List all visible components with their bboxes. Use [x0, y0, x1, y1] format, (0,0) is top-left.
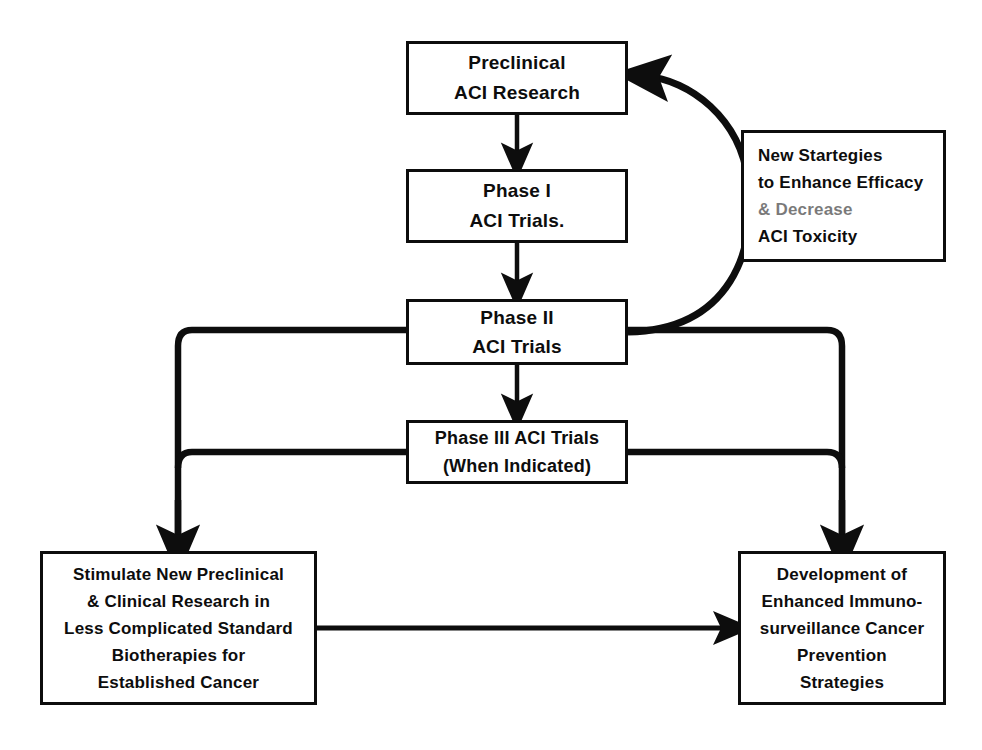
edge-phase3-to-development [628, 452, 842, 468]
node-phase2-line-1: Phase II [480, 303, 553, 332]
node-development-enhanced-immunosurveillance[interactable]: Development of Enhanced Immuno- surveill… [738, 551, 946, 705]
node-stimulate-line-3: Less Complicated Standard [64, 615, 293, 642]
edge-phase2-feedback-loop [628, 76, 750, 332]
edge-phase2-to-development [628, 330, 842, 540]
node-new-strategies[interactable]: New Startegies to Enhance Efficacy & Dec… [741, 130, 946, 262]
node-stimulate-line-1: Stimulate New Preclinical [73, 561, 284, 588]
node-development-line-2: Enhanced Immuno- [762, 588, 923, 615]
node-development-line-1: Development of [777, 561, 907, 588]
node-strategies-line-3: & Decrease [758, 196, 853, 223]
node-development-line-3: surveillance Cancer [760, 615, 924, 642]
node-stimulate-line-2: & Clinical Research in [87, 588, 270, 615]
node-stimulate-line-5: Established Cancer [98, 669, 259, 696]
node-phase3-line-2: (When Indicated) [443, 452, 591, 480]
node-stimulate-new-preclinical-research[interactable]: Stimulate New Preclinical & Clinical Res… [40, 551, 317, 705]
node-preclinical-line-1: Preclinical [468, 48, 565, 78]
node-phase2-line-2: ACI Trials [472, 332, 562, 361]
node-phase-i-aci-trials[interactable]: Phase I ACI Trials. [406, 169, 628, 243]
edge-phase2-to-stimulate [178, 330, 406, 540]
node-development-line-4: Prevention [797, 642, 887, 669]
node-strategies-line-4: ACI Toxicity [758, 223, 857, 250]
node-stimulate-line-4: Biotherapies for [112, 642, 246, 669]
node-phase-iii-aci-trials[interactable]: Phase III ACI Trials (When Indicated) [406, 420, 628, 484]
edge-phase3-to-stimulate [178, 452, 406, 468]
node-preclinical-aci-research[interactable]: Preclinical ACI Research [406, 41, 628, 115]
node-strategies-line-2: to Enhance Efficacy [758, 169, 923, 196]
node-phase-ii-aci-trials[interactable]: Phase II ACI Trials [406, 299, 628, 365]
node-preclinical-line-2: ACI Research [454, 78, 580, 108]
node-phase1-line-2: ACI Trials. [469, 206, 564, 236]
node-phase3-line-1: Phase III ACI Trials [435, 424, 599, 452]
node-strategies-line-1: New Startegies [758, 142, 883, 169]
node-phase1-line-1: Phase I [483, 176, 551, 206]
flowchart-canvas: Preclinical ACI Research Phase I ACI Tri… [0, 0, 982, 750]
node-development-line-5: Strategies [800, 669, 884, 696]
